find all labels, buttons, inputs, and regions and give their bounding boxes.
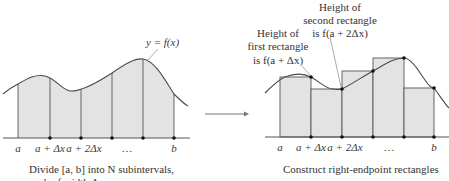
rectangle-4 (373, 58, 404, 137)
rectangle-5 (404, 88, 434, 137)
annotation-first-line1: Height of (257, 27, 299, 39)
rectangle-3 (342, 71, 373, 137)
tick-label-a-plus-2dx: a + 2Δx (66, 142, 101, 154)
annotation-second-line1: Height of (319, 1, 361, 13)
right-panel: Height of first rectangle is f(a + Δx) H… (248, 1, 449, 175)
tick-label-a-plus-dx: a + Δx (35, 142, 65, 154)
curve-label-leader (147, 49, 158, 61)
tick-label-a-plus-2dx-right: a + 2Δx (327, 141, 362, 153)
tick-label-ellipsis: … (122, 142, 133, 154)
riemann-diagram: y = f(x) a a + Δx a + 2Δx … b Divide [a,… (0, 0, 449, 181)
right-caption: Construct right-endpoint rectangles (283, 163, 439, 175)
tick-label-b-right: b (431, 141, 437, 153)
rectangle-1 (280, 77, 311, 137)
rectangle-2 (311, 89, 342, 137)
right-endpoint-rectangles (280, 58, 434, 137)
annotation-second-line3: is f(a + 2Δx) (312, 27, 368, 40)
tick-label-a-plus-dx-right: a + Δx (296, 141, 326, 153)
left-caption-line2: each of width Δx (29, 176, 105, 181)
transition-arrow-icon (205, 112, 249, 117)
tick-label-a: a (15, 142, 21, 154)
curve-label: y = f(x) (145, 36, 179, 49)
annotation-first-line2: first rectangle (248, 40, 309, 52)
area-under-curve (18, 59, 174, 138)
tick-label-b: b (171, 142, 177, 154)
annotation-second-line2: second rectangle (303, 14, 377, 26)
annotation-first-line3: is f(a + Δx) (253, 54, 304, 67)
tick-label-ellipsis-right: … (384, 141, 395, 153)
tick-label-a-right: a (277, 141, 283, 153)
left-caption-line1: Divide [a, b] into N subintervals, (29, 163, 174, 175)
annotation-second-leader (330, 37, 341, 87)
annotation-first-leader (302, 66, 310, 75)
left-panel: y = f(x) a a + Δx a + 2Δx … b Divide [a,… (3, 36, 190, 181)
